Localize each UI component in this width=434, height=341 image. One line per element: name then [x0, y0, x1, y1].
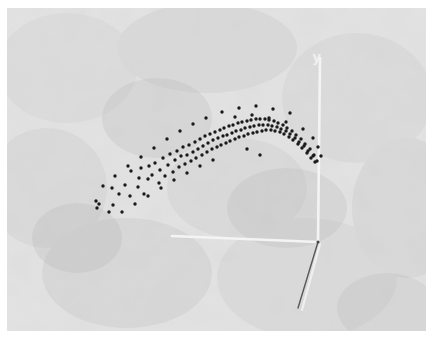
scatter-point — [168, 152, 171, 155]
scatter-point — [187, 143, 190, 146]
scatter-point — [319, 154, 322, 157]
scatter-point — [290, 129, 293, 132]
scatter-point — [250, 113, 253, 116]
scatter-point — [315, 159, 318, 162]
scatter-point — [254, 117, 257, 120]
scatter-point — [158, 168, 161, 171]
scatter-point — [142, 192, 145, 195]
scatter-point — [252, 124, 255, 127]
scatter-point — [198, 137, 201, 140]
scatter-point — [236, 121, 239, 124]
scatter-point — [258, 153, 261, 156]
scatter-point — [220, 110, 223, 113]
scatter-point — [258, 117, 261, 120]
scatter-point — [227, 124, 230, 127]
scatter-point — [173, 158, 176, 161]
scatter-point — [293, 136, 296, 139]
scatter-point — [113, 174, 116, 177]
scatter-point — [120, 210, 123, 213]
scatter-point — [245, 147, 248, 150]
scatter-point — [204, 116, 207, 119]
scatter-point — [175, 149, 178, 152]
scatter-point — [267, 116, 270, 119]
scatter-point — [215, 145, 218, 148]
scatter-point — [316, 145, 319, 148]
scatter-point — [107, 210, 110, 213]
scatter-point — [272, 119, 275, 122]
scatter-point — [183, 162, 186, 165]
scatter-series — [7, 8, 426, 331]
scatter-point — [208, 132, 211, 135]
figure-canvas: y — [0, 0, 434, 341]
scatter-point — [206, 141, 209, 144]
scatter-point — [211, 138, 214, 141]
scatter-point — [230, 131, 233, 134]
scatter-point — [218, 128, 221, 131]
scatter-point — [95, 206, 98, 209]
scatter-point — [111, 203, 114, 206]
scatter-point — [200, 153, 203, 156]
scatter-point — [211, 158, 214, 161]
scatter-point — [237, 135, 240, 138]
scatter-point — [152, 146, 155, 149]
scatter-point — [146, 194, 149, 197]
scatter-point — [261, 123, 264, 126]
scatter-point — [279, 127, 282, 130]
scatter-point — [285, 126, 288, 129]
plot-area: y — [7, 8, 426, 331]
scatter-point — [203, 134, 206, 137]
scatter-point — [165, 137, 168, 140]
scatter-point — [191, 122, 194, 125]
scatter-point — [172, 178, 175, 181]
scatter-point — [110, 186, 113, 189]
scatter-point — [139, 166, 142, 169]
scatter-point — [139, 155, 142, 158]
scatter-point — [219, 143, 222, 146]
scatter-point — [101, 184, 104, 187]
scatter-point — [163, 174, 166, 177]
scatter-point — [288, 111, 291, 114]
scatter-point — [264, 128, 267, 131]
scatter-point — [275, 125, 278, 128]
y-axis-label: y — [313, 49, 321, 64]
scatter-point — [231, 123, 234, 126]
scatter-point — [189, 159, 192, 162]
scatter-point — [270, 124, 273, 127]
scatter-point — [196, 147, 199, 150]
scatter-point — [117, 192, 120, 195]
scatter-point — [257, 123, 260, 126]
scatter-point — [311, 136, 314, 139]
scatter-point — [269, 128, 272, 131]
scatter-point — [288, 132, 291, 135]
scatter-point — [233, 115, 236, 118]
scatter-point — [281, 123, 284, 126]
scatter-point — [123, 183, 126, 186]
scatter-point — [185, 153, 188, 156]
scatter-point — [198, 164, 201, 167]
scatter-point — [136, 185, 139, 188]
scatter-point — [225, 133, 228, 136]
scatter-point — [129, 169, 132, 172]
scatter-point — [299, 137, 302, 140]
scatter-point — [179, 154, 182, 157]
scatter-point — [263, 117, 266, 120]
scatter-point — [177, 165, 180, 168]
scatter-point — [240, 120, 243, 123]
scatter-point — [137, 176, 140, 179]
scatter-point — [228, 139, 231, 142]
scatter-point — [157, 181, 160, 184]
scatter-point — [178, 129, 181, 132]
scatter-point — [251, 131, 254, 134]
scatter-point — [278, 130, 281, 133]
scatter-point — [159, 186, 162, 189]
scatter-point — [255, 130, 258, 133]
scatter-point — [254, 104, 257, 107]
scatter-point — [246, 132, 249, 135]
scatter-point — [273, 129, 276, 132]
scatter-point — [297, 140, 300, 143]
scatter-point — [239, 128, 242, 131]
scatter-point — [224, 141, 227, 144]
scatter-point — [233, 137, 236, 140]
scatter-point — [201, 144, 204, 147]
scatter-point — [221, 134, 224, 137]
